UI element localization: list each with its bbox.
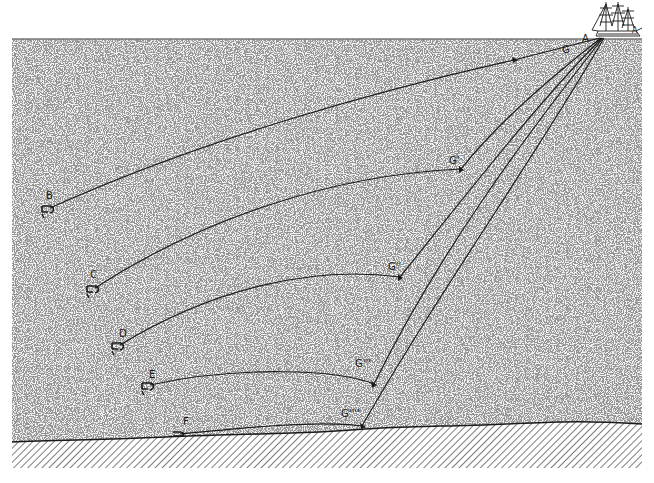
ship-label-a: A — [582, 33, 589, 44]
ship-label-stern: A — [632, 26, 638, 35]
weight-label-g1: G' — [449, 155, 460, 166]
anchor-label-d: D — [119, 328, 127, 339]
weight-label-g: G — [562, 44, 570, 55]
weight-label-g3: G''' — [355, 358, 371, 369]
anchor-label-c: C — [90, 269, 97, 280]
water-body — [12, 39, 642, 444]
weight-label-g4: G'''' — [341, 408, 360, 419]
anchor-label-e: E — [149, 369, 155, 380]
anchor-label-f: F — [183, 416, 189, 427]
weight-label-g2: G'' — [388, 261, 401, 272]
cable-anchor-diagram: A A G G' G'' G''' G'''' B C D E F — [0, 0, 654, 483]
anchor-label-b: B — [46, 190, 53, 201]
